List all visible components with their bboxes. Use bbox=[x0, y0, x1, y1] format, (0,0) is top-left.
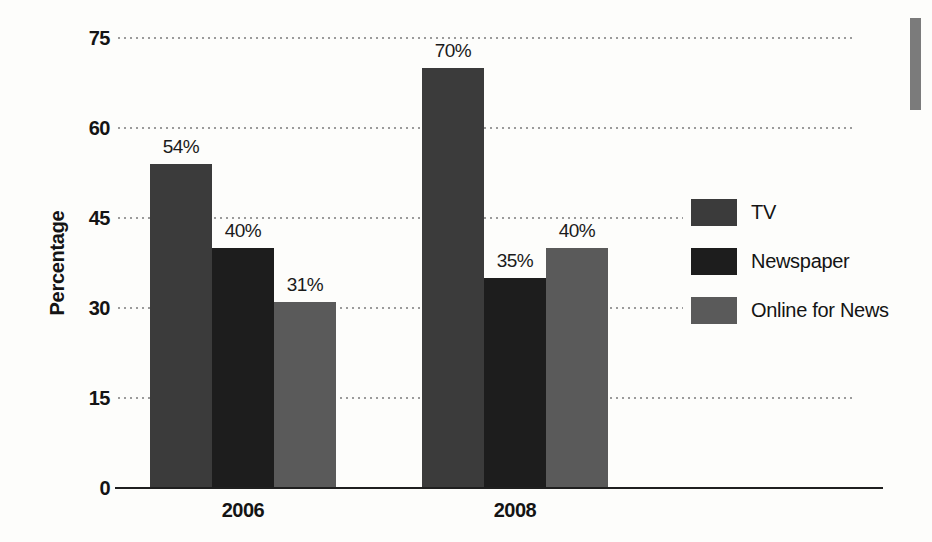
legend-swatch bbox=[691, 248, 737, 275]
gridline-60 bbox=[118, 127, 856, 129]
bar-2008-tv bbox=[422, 68, 484, 488]
bar-2008-newspaper bbox=[484, 278, 546, 488]
bar-value-label: 35% bbox=[497, 250, 534, 272]
legend-label: Online for News bbox=[751, 299, 889, 322]
legend: TVNewspaperOnline for News bbox=[683, 191, 903, 332]
y-tick-label-0: 0 bbox=[58, 477, 110, 499]
x-tick-label-2006: 2006 bbox=[222, 499, 265, 522]
bar-value-label: 40% bbox=[225, 220, 262, 242]
gridline-75 bbox=[118, 37, 856, 39]
y-tick-label-75: 75 bbox=[58, 27, 110, 49]
page-margin-bar bbox=[910, 18, 921, 110]
bar-value-label: 70% bbox=[435, 40, 472, 62]
y-tick-label-15: 15 bbox=[58, 387, 110, 409]
bar-2008-online-for-news bbox=[546, 248, 608, 488]
x-axis-line bbox=[115, 487, 883, 489]
legend-swatch bbox=[691, 297, 737, 324]
legend-item-newspaper: Newspaper bbox=[691, 248, 889, 275]
x-tick-label-2008: 2008 bbox=[494, 499, 537, 522]
bar-2006-newspaper bbox=[212, 248, 274, 488]
y-axis-title: Percentage bbox=[46, 211, 69, 316]
bar-2006-online-for-news bbox=[274, 302, 336, 488]
y-tick-label-60: 60 bbox=[58, 117, 110, 139]
legend-label: TV bbox=[751, 201, 776, 224]
bar-2006-tv bbox=[150, 164, 212, 488]
legend-item-tv: TV bbox=[691, 199, 889, 226]
legend-item-online-for-news: Online for News bbox=[691, 297, 889, 324]
bar-value-label: 54% bbox=[163, 136, 200, 158]
bar-value-label: 40% bbox=[559, 220, 596, 242]
legend-swatch bbox=[691, 199, 737, 226]
bar-chart-figure: 01530456075 Percentage 54%40%31%70%35%40… bbox=[0, 0, 932, 542]
legend-label: Newspaper bbox=[751, 250, 849, 273]
bar-value-label: 31% bbox=[287, 274, 324, 296]
